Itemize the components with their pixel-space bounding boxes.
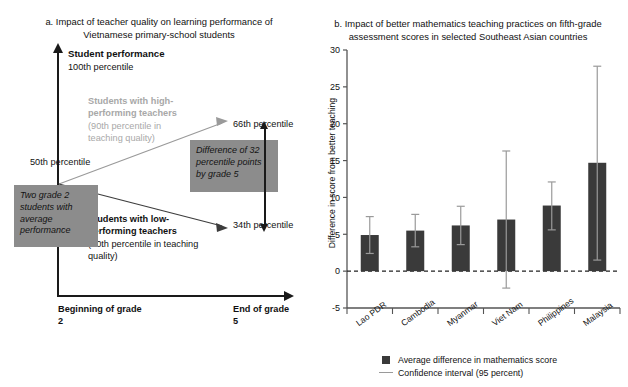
low-label-line1: Students with low- [88,214,169,224]
double-arrow-up-icon [260,121,268,129]
x-end-label: End of grade 5 [233,303,293,328]
panel-b-bar-chart: -5051015202530 [300,0,628,387]
y-tick-label: 10 [330,193,340,203]
y-mid-label: 50th percentile [30,156,90,168]
y-tick-label: 15 [330,156,340,166]
y-top-label: 100th percentile [68,61,133,73]
y-tick-label: 25 [330,82,340,92]
high-label-line1: Students with high- [88,96,173,106]
low-label-line2: performing teachers [88,226,177,236]
y-tick-label: 20 [330,119,340,129]
panel-a-teacher-quality: a. Impact of teacher quality on learning… [0,0,320,387]
low-performing-teachers-label: Students with low- performing teachers (… [88,213,208,263]
high-performing-teachers-label: Students with high- performing teachers … [88,95,198,145]
legend-ci-label: Confidence interval (95 percent) [398,368,523,378]
high-label-line2: performing teachers [88,108,177,118]
y-tick-label: 0 [335,266,340,276]
double-arrow-down-icon [260,224,268,232]
y-tick-label: 5 [335,230,340,240]
legend-bar-swatch [382,356,390,364]
y-tick-label: -5 [332,303,340,313]
x-start-label: Beginning of grade 2 [58,303,148,328]
panel-b-math-teaching: b. Impact of better mathematics teaching… [300,0,628,387]
high-label-sub: (90th percentile in teaching quality) [88,121,161,143]
callout-start-box: Two grade 2 students with average perfor… [14,185,98,247]
legend-bar-label: Average difference in mathematics score [398,355,557,365]
difference-double-arrow [264,128,266,226]
y-axis-title: Student performance [68,48,165,60]
low-label-sub: (10th percentile in teaching quality) [88,239,198,261]
y-tick-label: 30 [330,45,340,55]
legend-ci-swatch [379,372,393,373]
